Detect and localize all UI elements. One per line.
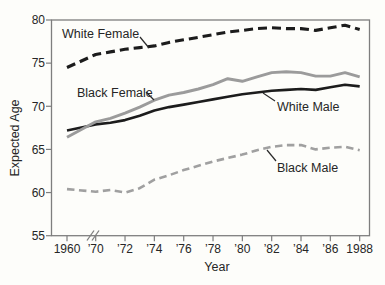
- x-tick-label: ’78: [205, 242, 221, 256]
- x-tick-label: ’72: [117, 242, 133, 256]
- x-tick-label: ’82: [264, 242, 280, 256]
- x-tick-label: ’74: [146, 242, 162, 256]
- y-tick-label: 55: [32, 229, 46, 243]
- life-expectancy-chart: 5560657075801960’70’72’74’76’78’80’82’84…: [0, 0, 385, 285]
- y-tick-label: 80: [32, 13, 46, 27]
- x-tick-label: 1988: [346, 242, 373, 256]
- x-tick-label: ’70: [88, 242, 104, 256]
- x-tick-label: ’86: [322, 242, 338, 256]
- x-tick-label: 1960: [54, 242, 81, 256]
- y-tick-label: 75: [32, 56, 46, 70]
- series-label-black-female: Black Female: [77, 86, 153, 100]
- chart-canvas: 5560657075801960’70’72’74’76’78’80’82’84…: [0, 0, 385, 285]
- y-axis-label: Expected Age: [8, 99, 22, 176]
- y-tick-label: 60: [32, 186, 46, 200]
- series-label-white-female: White Female: [62, 27, 139, 41]
- series-label-white-male: White Male: [277, 100, 340, 114]
- y-tick-label: 65: [32, 143, 46, 157]
- y-tick-label: 70: [32, 100, 46, 114]
- x-tick-label: ’76: [176, 242, 192, 256]
- label-pointer-black-male: [267, 150, 276, 161]
- label-pointer-white-male: [263, 93, 275, 101]
- x-axis-label: Year: [204, 260, 229, 274]
- x-tick-label: ’80: [234, 242, 250, 256]
- x-tick-label: ’84: [293, 242, 309, 256]
- series-label-black-male: Black Male: [277, 161, 338, 175]
